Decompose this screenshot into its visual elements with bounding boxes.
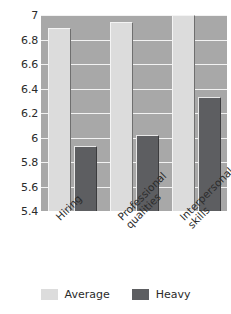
y-axis-tick: 6.2 bbox=[21, 108, 38, 119]
legend-item-heavy: Heavy bbox=[132, 289, 191, 300]
gridline bbox=[41, 15, 227, 16]
chart-legend: Average Heavy bbox=[0, 284, 231, 304]
y-axis-tick: 7 bbox=[31, 10, 38, 21]
plot-area bbox=[41, 15, 227, 211]
bar-average-0 bbox=[48, 28, 71, 211]
legend-label-heavy: Heavy bbox=[156, 289, 191, 300]
y-axis-tick: 6.6 bbox=[21, 59, 38, 70]
y-axis-tick: 6.8 bbox=[21, 34, 38, 45]
legend-swatch-average bbox=[41, 289, 58, 300]
y-axis-tick: 6 bbox=[31, 132, 38, 143]
bar-chart: 76.86.66.46.265.85.65.4 HiringProfession… bbox=[0, 0, 231, 314]
legend-swatch-heavy bbox=[132, 289, 149, 300]
x-axis-labels: HiringProfessionalqualitiesInterpersonal… bbox=[0, 211, 231, 281]
legend-item-average: Average bbox=[41, 289, 110, 300]
bar-average-1 bbox=[110, 22, 133, 211]
y-axis-tick: 5.6 bbox=[21, 181, 38, 192]
y-axis-tick: 6.4 bbox=[21, 83, 38, 94]
bar-average-2 bbox=[172, 15, 195, 211]
legend-label-average: Average bbox=[65, 289, 110, 300]
y-axis-tick: 5.8 bbox=[21, 157, 38, 168]
